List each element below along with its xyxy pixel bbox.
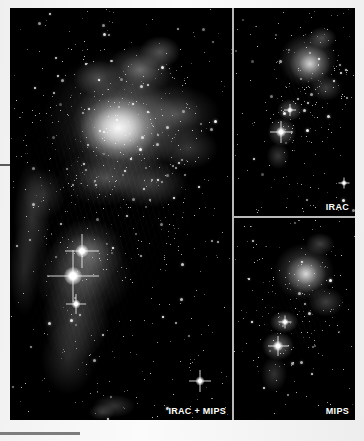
panel-irac-mips[interactable]: IRAC + MIPS bbox=[10, 8, 234, 420]
starfield-main bbox=[10, 8, 232, 420]
starfield-irac bbox=[234, 8, 355, 216]
left-margin-tick bbox=[0, 164, 10, 166]
page-background: IRAC + MIPS IRAC bbox=[0, 0, 364, 441]
right-panel-column: IRAC MIPS bbox=[234, 8, 355, 420]
panel-label-irac-mips: IRAC + MIPS bbox=[168, 406, 226, 416]
panel-label-mips: MIPS bbox=[326, 406, 349, 416]
figure-composite: IRAC + MIPS IRAC bbox=[10, 8, 355, 420]
starfield-mips bbox=[234, 218, 355, 420]
panel-mips[interactable]: MIPS bbox=[234, 218, 355, 420]
bottom-horizontal-rule bbox=[0, 432, 80, 435]
panel-irac[interactable]: IRAC bbox=[234, 8, 355, 218]
panel-label-irac: IRAC bbox=[326, 202, 349, 212]
